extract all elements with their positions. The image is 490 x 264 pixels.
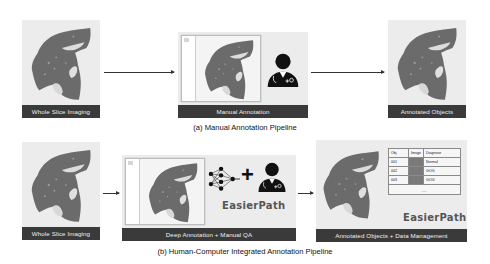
obj-id-cell: 003 bbox=[389, 176, 409, 185]
annotation-software-screenshot bbox=[125, 158, 205, 225]
step-label: Whole Slice Imaging bbox=[22, 227, 100, 240]
arrow-right-icon bbox=[298, 193, 313, 194]
obj-id-cell: 002 bbox=[389, 167, 409, 176]
obj-id-cell: 001 bbox=[389, 158, 409, 167]
tissue-slide-icon bbox=[144, 161, 202, 223]
arrow-right-icon bbox=[103, 193, 119, 194]
arrow-right-icon bbox=[104, 72, 174, 73]
table-row: 002 GOG bbox=[389, 167, 461, 176]
image-thumbnail-cell bbox=[409, 158, 424, 167]
doctor-icon bbox=[257, 161, 287, 193]
table-row: 001 Normal bbox=[389, 158, 461, 167]
software-sidebar bbox=[126, 159, 140, 224]
column-header-diagnose: Diagnose bbox=[424, 149, 461, 158]
tissue-slide-icon bbox=[320, 146, 382, 222]
step-b1-whole-slice-imaging: Whole Slice Imaging bbox=[22, 142, 100, 240]
easierpath-brand: EasierPath bbox=[403, 212, 466, 223]
plus-icon: + bbox=[241, 161, 254, 189]
step-label: Whole Slice Imaging bbox=[22, 105, 100, 118]
tissue-slide-icon bbox=[200, 38, 258, 100]
arrow-right-icon bbox=[311, 72, 384, 73]
neural-network-icon bbox=[208, 166, 240, 192]
step-label: Manual Annotation bbox=[178, 105, 308, 118]
table-more-row: … bbox=[389, 185, 461, 195]
step-b3-annotated-objects-data-management: Obj Image Diagnose 001 Normal 002 GOG 00… bbox=[316, 140, 467, 242]
diagnose-cell: GOG bbox=[424, 176, 461, 185]
step-a2-manual-annotation: Manual Annotation bbox=[178, 32, 308, 118]
tissue-slide-icon bbox=[394, 24, 460, 102]
step-a3-annotated-objects: Annotated Objects bbox=[388, 20, 466, 118]
column-header-image: Image bbox=[409, 149, 424, 158]
caption-pipeline-b: (b) Human-Computer Integrated Annotation… bbox=[120, 247, 370, 256]
diagnose-cell: GOG bbox=[424, 167, 461, 176]
table-header-row: Obj Image Diagnose bbox=[389, 149, 461, 158]
step-label: Annotated Objects bbox=[388, 105, 466, 118]
table-row: 003 GOG bbox=[389, 176, 461, 185]
step-label: Annotated Objects + Data Management bbox=[316, 229, 467, 242]
more-rows-ellipsis: … bbox=[389, 185, 461, 195]
easierpath-brand: EasierPath bbox=[222, 200, 285, 211]
doctor-icon bbox=[266, 52, 300, 88]
image-thumbnail-cell bbox=[409, 176, 424, 185]
tissue-slide-icon bbox=[28, 146, 94, 224]
annotation-software-screenshot bbox=[181, 35, 261, 102]
diagnose-cell: Normal bbox=[424, 158, 461, 167]
image-thumbnail-cell bbox=[409, 167, 424, 176]
step-b2-deep-annotation-manual-qa: + EasierPath Deep Annotation + Manual QA bbox=[122, 155, 296, 241]
column-header-obj: Obj bbox=[389, 149, 409, 158]
caption-pipeline-a: (a) Manual Annotation Pipeline bbox=[145, 123, 345, 132]
tissue-slide-icon bbox=[28, 24, 94, 102]
step-label: Deep Annotation + Manual QA bbox=[122, 228, 296, 241]
software-sidebar bbox=[182, 36, 196, 101]
step-a1-whole-slice-imaging: Whole Slice Imaging bbox=[22, 20, 100, 118]
data-management-table: Obj Image Diagnose 001 Normal 002 GOG 00… bbox=[388, 148, 461, 195]
